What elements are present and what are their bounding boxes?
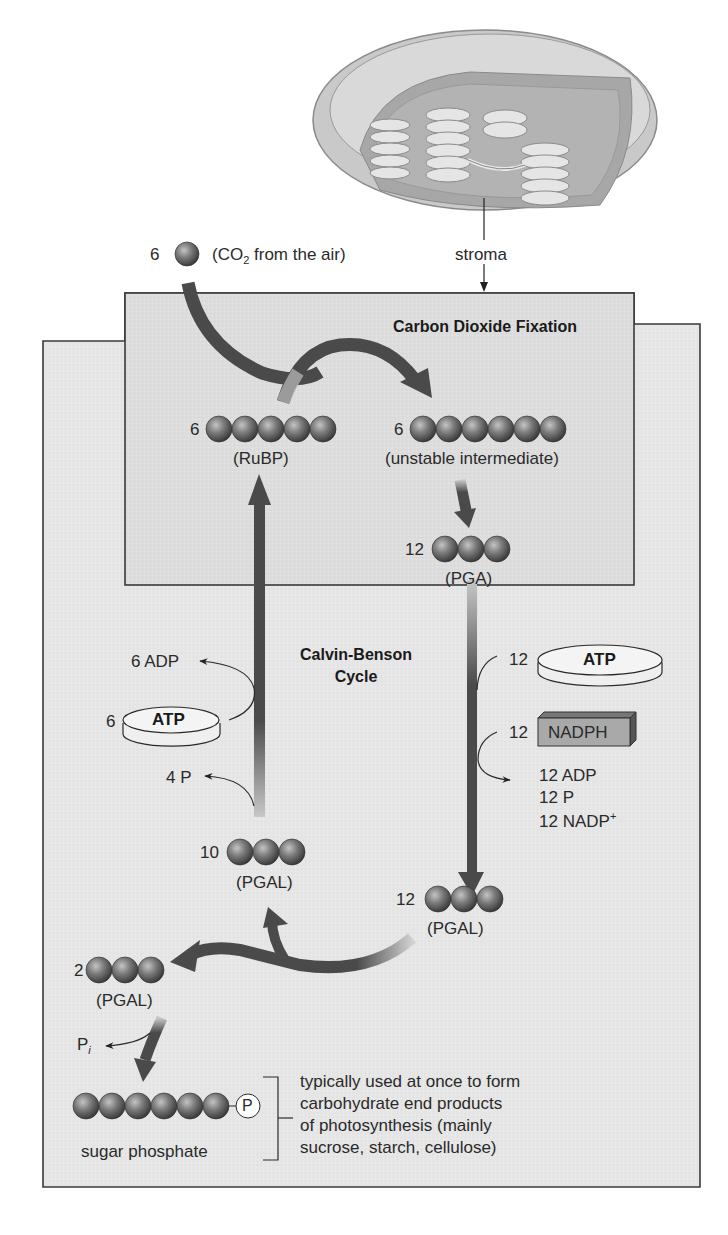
- nadph-label: NADPH: [548, 724, 608, 741]
- molecule-rubp: [206, 416, 336, 442]
- molecule-pgal-10: [227, 839, 305, 865]
- note-line-4: sucrose, starch, cellulose): [300, 1139, 497, 1156]
- pgal-12-label: (PGAL): [427, 920, 484, 937]
- output-p: 12 P: [539, 789, 574, 806]
- unstable-label: (unstable intermediate): [385, 450, 559, 467]
- molecule-pga: [432, 536, 510, 562]
- diagram-graphics: [0, 0, 728, 1235]
- unstable-count: 6: [394, 421, 403, 438]
- co2-count: 6: [150, 246, 159, 263]
- rubp-label: (RuBP): [233, 450, 289, 467]
- adp-out-left: 6 ADP: [131, 653, 179, 670]
- pga-label: (PGA): [445, 570, 492, 587]
- pgal-10-count: 10: [200, 844, 219, 861]
- co2-label: (CO2 from the air): [212, 246, 346, 266]
- stroma-label: stroma: [455, 246, 507, 263]
- nadph-count: 12: [509, 724, 528, 741]
- atp-left-label: ATP: [152, 711, 185, 728]
- region-title-co2-fixation: Carbon Dioxide Fixation: [393, 319, 577, 335]
- p-out-left: 4 P: [166, 769, 192, 786]
- note-line-3: of photosynthesis (mainly: [300, 1117, 492, 1134]
- atp-left-count: 6: [106, 713, 115, 730]
- output-adp: 12 ADP: [539, 767, 597, 784]
- cycle-label-line2: Cycle: [296, 669, 416, 685]
- co2-molecule-icon: [175, 242, 199, 266]
- pgal-2-count-text: 2: [74, 962, 83, 979]
- note-line-2: carbohydrate end products: [300, 1095, 502, 1112]
- molecule-pgal-2: [86, 957, 164, 983]
- pga-count: 12: [405, 541, 424, 558]
- molecule-pgal-12: [425, 886, 503, 912]
- pgal-12-count: 12: [396, 891, 415, 908]
- atp-right-count: 12: [509, 651, 528, 668]
- pi-label: Pi: [77, 1036, 91, 1056]
- atp-right-label: ATP: [583, 651, 616, 668]
- sugar-phosphate-label: sugar phosphate: [81, 1143, 208, 1160]
- pgal-10-label: (PGAL): [236, 874, 293, 891]
- phosphate-label: P: [242, 1098, 253, 1114]
- pgal-2-label: (PGAL): [96, 992, 153, 1009]
- rubp-count: 6: [190, 421, 199, 438]
- cycle-label-line1: Calvin-Benson: [296, 647, 416, 663]
- output-nadp: 12 NADP+: [539, 811, 616, 830]
- note-line-1: typically used at once to form: [300, 1073, 520, 1090]
- chloroplast-illustration: [313, 30, 657, 210]
